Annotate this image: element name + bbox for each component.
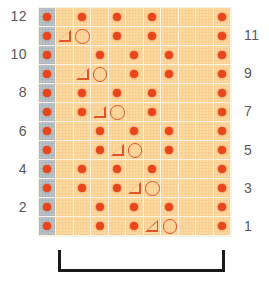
stitch-cell-r12-c9[interactable] [179, 8, 196, 27]
stitch-cell-r7-c6[interactable] [126, 103, 143, 122]
stitch-cell-r1-c10[interactable] [196, 217, 213, 236]
stitch-cell-r4-c8[interactable] [161, 160, 178, 179]
stitch-cell-r6-c11-dot[interactable] [214, 122, 231, 141]
stitch-cell-r10-c7[interactable] [144, 46, 161, 65]
stitch-cell-r6-c5[interactable] [109, 122, 126, 141]
stitch-cell-r1-c6-dot[interactable] [126, 217, 143, 236]
stitch-cell-r9-c6-dot[interactable] [126, 65, 143, 84]
stitch-cell-r7-c9[interactable] [179, 103, 196, 122]
stitch-cell-r12-c3-dot[interactable] [74, 8, 91, 27]
stitch-cell-r7-c7-dot[interactable] [144, 103, 161, 122]
stitch-cell-r8-c11-dot[interactable] [214, 84, 231, 103]
stitch-cell-r11-c7-dot[interactable] [144, 27, 161, 46]
stitch-cell-r4-c6[interactable] [126, 160, 143, 179]
stitch-cell-r12-c5-dot[interactable] [109, 8, 126, 27]
stitch-cell-r4-c10[interactable] [196, 160, 213, 179]
stitch-cell-r12-c11-dot[interactable] [214, 8, 231, 27]
stitch-cell-r9-c1-dot[interactable] [39, 65, 56, 84]
stitch-cell-r2-c11-dot[interactable] [214, 198, 231, 217]
stitch-cell-r5-c11-dot[interactable] [214, 141, 231, 160]
stitch-cell-r2-c9[interactable] [179, 198, 196, 217]
stitch-cell-r4-c5-dot[interactable] [109, 160, 126, 179]
stitch-cell-r8-c9[interactable] [179, 84, 196, 103]
stitch-cell-r10-c8-dot[interactable] [161, 46, 178, 65]
stitch-cell-r6-c4-dot[interactable] [91, 122, 108, 141]
stitch-cell-r1-c7-triangle[interactable] [144, 217, 161, 236]
stitch-cell-r12-c6[interactable] [126, 8, 143, 27]
stitch-cell-r3-c5-dot[interactable] [109, 179, 126, 198]
stitch-grid[interactable] [38, 7, 232, 237]
stitch-cell-r10-c3[interactable] [74, 46, 91, 65]
stitch-cell-r5-c9[interactable] [179, 141, 196, 160]
stitch-cell-r4-c2[interactable] [56, 160, 73, 179]
stitch-cell-r6-c8-dot[interactable] [161, 122, 178, 141]
stitch-cell-r10-c11-dot[interactable] [214, 46, 231, 65]
stitch-cell-r2-c6-dot[interactable] [126, 198, 143, 217]
stitch-cell-r8-c7-dot[interactable] [144, 84, 161, 103]
stitch-cell-r1-c9[interactable] [179, 217, 196, 236]
stitch-cell-r5-c7[interactable] [144, 141, 161, 160]
stitch-cell-r11-c6[interactable] [126, 27, 143, 46]
stitch-cell-r11-c5-dot[interactable] [109, 27, 126, 46]
stitch-cell-r8-c1-dot[interactable] [39, 84, 56, 103]
stitch-cell-r1-c5[interactable] [109, 217, 126, 236]
stitch-cell-r1-c2[interactable] [56, 217, 73, 236]
stitch-cell-r10-c10[interactable] [196, 46, 213, 65]
stitch-cell-r1-c3[interactable] [74, 217, 91, 236]
stitch-cell-r5-c4-dot[interactable] [91, 141, 108, 160]
stitch-cell-r5-c6-circle[interactable] [126, 141, 143, 160]
stitch-cell-r6-c3[interactable] [74, 122, 91, 141]
stitch-cell-r9-c10[interactable] [196, 65, 213, 84]
stitch-cell-r12-c7-dot[interactable] [144, 8, 161, 27]
stitch-cell-r8-c5-dot[interactable] [109, 84, 126, 103]
stitch-cell-r7-c2[interactable] [56, 103, 73, 122]
stitch-cell-r10-c6-dot[interactable] [126, 46, 143, 65]
stitch-cell-r5-c5-triangle[interactable] [109, 141, 126, 160]
stitch-cell-r2-c8-dot[interactable] [161, 198, 178, 217]
stitch-cell-r7-c3-dot[interactable] [74, 103, 91, 122]
stitch-cell-r1-c1-dot[interactable] [39, 217, 56, 236]
stitch-cell-r9-c4-circle[interactable] [91, 65, 108, 84]
stitch-cell-r4-c11-dot[interactable] [214, 160, 231, 179]
stitch-cell-r6-c1-dot[interactable] [39, 122, 56, 141]
stitch-cell-r3-c9[interactable] [179, 179, 196, 198]
stitch-cell-r3-c3-dot[interactable] [74, 179, 91, 198]
stitch-cell-r8-c2[interactable] [56, 84, 73, 103]
stitch-cell-r2-c3[interactable] [74, 198, 91, 217]
stitch-cell-r4-c1-dot[interactable] [39, 160, 56, 179]
stitch-cell-r9-c11-dot[interactable] [214, 65, 231, 84]
stitch-cell-r9-c8-dot[interactable] [161, 65, 178, 84]
stitch-cell-r4-c3-dot[interactable] [74, 160, 91, 179]
stitch-cell-r4-c4[interactable] [91, 160, 108, 179]
stitch-cell-r2-c2[interactable] [56, 198, 73, 217]
stitch-cell-r5-c8-dot[interactable] [161, 141, 178, 160]
stitch-cell-r11-c2-triangle[interactable] [56, 27, 73, 46]
stitch-cell-r7-c10[interactable] [196, 103, 213, 122]
stitch-cell-r3-c8[interactable] [161, 179, 178, 198]
stitch-cell-r9-c7[interactable] [144, 65, 161, 84]
stitch-cell-r10-c5[interactable] [109, 46, 126, 65]
stitch-cell-r5-c2[interactable] [56, 141, 73, 160]
stitch-cell-r9-c3-triangle[interactable] [74, 65, 91, 84]
stitch-cell-r11-c3-circle[interactable] [74, 27, 91, 46]
stitch-cell-r4-c9[interactable] [179, 160, 196, 179]
stitch-cell-r7-c5-circle[interactable] [109, 103, 126, 122]
stitch-cell-r9-c2[interactable] [56, 65, 73, 84]
stitch-cell-r10-c9[interactable] [179, 46, 196, 65]
stitch-cell-r8-c3-dot[interactable] [74, 84, 91, 103]
stitch-cell-r12-c1-dot[interactable] [39, 8, 56, 27]
stitch-cell-r7-c4-triangle[interactable] [91, 103, 108, 122]
stitch-cell-r8-c10[interactable] [196, 84, 213, 103]
stitch-cell-r9-c5[interactable] [109, 65, 126, 84]
stitch-cell-r7-c11-dot[interactable] [214, 103, 231, 122]
stitch-cell-r8-c6[interactable] [126, 84, 143, 103]
stitch-cell-r3-c1-dot[interactable] [39, 179, 56, 198]
stitch-cell-r3-c7-circle[interactable] [144, 179, 161, 198]
stitch-cell-r2-c5[interactable] [109, 198, 126, 217]
stitch-cell-r9-c9[interactable] [179, 65, 196, 84]
stitch-cell-r10-c2[interactable] [56, 46, 73, 65]
stitch-cell-r2-c10[interactable] [196, 198, 213, 217]
stitch-cell-r12-c10[interactable] [196, 8, 213, 27]
stitch-cell-r10-c4-dot[interactable] [91, 46, 108, 65]
stitch-cell-r8-c8[interactable] [161, 84, 178, 103]
